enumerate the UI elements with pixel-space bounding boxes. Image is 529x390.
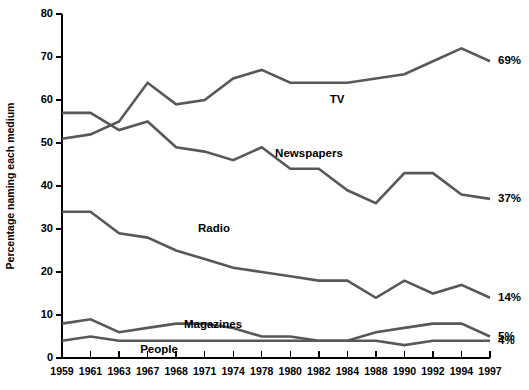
series-label-newspapers: Newspapers	[275, 147, 343, 159]
chart-canvas: 01020304050607080 1959196119631967196819…	[0, 0, 529, 390]
y-tick-label-40: 40	[41, 179, 53, 191]
series-label-people: People	[140, 343, 178, 355]
y-tick-label-0: 0	[47, 351, 53, 363]
series-line-magazines	[62, 319, 490, 341]
y-tick-label-80: 80	[41, 7, 53, 19]
x-tick-label-1982: 1982	[307, 365, 331, 377]
y-tick-label-10: 10	[41, 308, 53, 320]
x-tick-label-1980: 1980	[279, 365, 303, 377]
series-label-radio: Radio	[198, 222, 230, 234]
x-tick-label-1971: 1971	[193, 365, 217, 377]
x-tick-label-1974: 1974	[222, 365, 246, 377]
x-axis: 1959196119631967196819711974197819801982…	[50, 351, 502, 377]
end-label-newspapers: 37%	[498, 192, 521, 204]
x-tick-label-1997: 1997	[478, 365, 502, 377]
x-tick-label-1984: 1984	[336, 365, 360, 377]
series-line-tv	[62, 48, 490, 138]
end-label-people: 4%	[498, 334, 515, 346]
y-axis-title: Percentage naming each medium	[4, 103, 16, 270]
series-end-value-labels: 69%37%14%5%4%	[498, 54, 521, 346]
series-line-radio	[62, 212, 490, 298]
x-tick-label-1994: 1994	[450, 365, 474, 377]
x-tick-label-1968: 1968	[164, 365, 188, 377]
x-tick-label-1961: 1961	[79, 365, 103, 377]
series-lines	[62, 48, 490, 345]
y-axis: 01020304050607080	[41, 7, 62, 363]
end-label-tv: 69%	[498, 54, 521, 66]
x-tick-label-1990: 1990	[393, 365, 417, 377]
x-tick-label-1978: 1978	[250, 365, 274, 377]
series-inline-labels: TVNewspapersRadioMagazinesPeople	[140, 93, 345, 355]
end-label-radio: 14%	[498, 291, 521, 303]
line-chart: 01020304050607080 1959196119631967196819…	[0, 0, 529, 390]
x-tick-label-1967: 1967	[136, 365, 160, 377]
x-tick-label-1959: 1959	[50, 365, 74, 377]
y-tick-label-30: 30	[41, 222, 53, 234]
y-axis-title-text: Percentage naming each medium	[4, 103, 16, 270]
x-tick-label-1963: 1963	[107, 365, 131, 377]
y-tick-label-50: 50	[41, 136, 53, 148]
x-tick-label-1992: 1992	[421, 365, 445, 377]
series-label-tv: TV	[330, 93, 345, 105]
x-tick-label-1988: 1988	[364, 365, 388, 377]
y-tick-label-60: 60	[41, 93, 53, 105]
series-label-magazines: Magazines	[184, 318, 242, 330]
y-tick-label-70: 70	[41, 50, 53, 62]
y-tick-label-20: 20	[41, 265, 53, 277]
